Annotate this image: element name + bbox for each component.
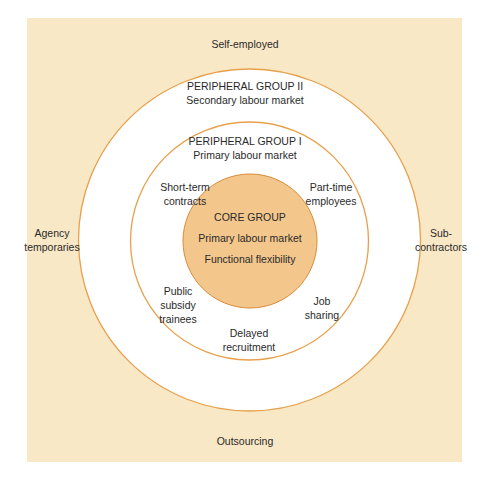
label-self-employed: Self-employed <box>211 37 278 51</box>
label-short-term-contracts: Short-term contracts <box>160 180 210 208</box>
label-job-sharing: Job sharing <box>305 294 339 322</box>
peripheral-group-2-subtitle: Secondary labour market <box>186 93 303 107</box>
label-part-time-employees: Part-time employees <box>306 180 357 208</box>
core-group-functional-flexibility: Functional flexibility <box>204 252 295 266</box>
label-agency-temporaries: Agency temporaries <box>24 226 79 254</box>
peripheral-group-1-subtitle: Primary labour market <box>193 148 296 162</box>
label-sub-contractors: Sub- contractors <box>415 226 467 254</box>
label-public-subsidy-trainees: Public subsidy trainees <box>159 284 196 326</box>
label-delayed-recruitment: Delayed recruitment <box>223 326 276 354</box>
label-outsourcing: Outsourcing <box>217 434 274 448</box>
peripheral-group-1-title: PERIPHERAL GROUP I <box>188 134 301 148</box>
core-group-primary-labour-market: Primary labour market <box>198 231 301 245</box>
peripheral-group-2-title: PERIPHERAL GROUP II <box>187 79 303 93</box>
core-group-title: CORE GROUP <box>214 210 286 224</box>
